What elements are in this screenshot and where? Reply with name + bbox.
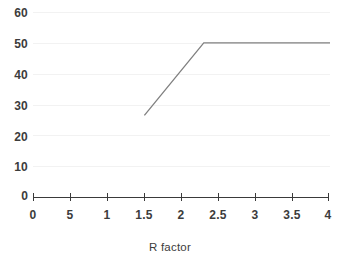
y-tick-label: 0 xyxy=(0,190,28,202)
x-tick xyxy=(144,193,145,201)
x-tick-label: 2 xyxy=(161,208,201,222)
y-tick-label: 60 xyxy=(0,7,28,19)
x-tick-label: 0 xyxy=(13,208,53,222)
x-tick-label: 1.5 xyxy=(124,208,164,222)
series-polyline xyxy=(144,43,330,115)
x-tick-label: 2.5 xyxy=(198,208,238,222)
x-tick xyxy=(33,193,34,201)
x-tick xyxy=(218,193,219,201)
series-line xyxy=(33,12,330,197)
x-tick-label: 4 xyxy=(308,208,340,222)
x-tick-label: 5 xyxy=(50,208,90,222)
x-axis-title: R factor xyxy=(0,241,340,253)
x-tick xyxy=(328,193,329,201)
x-tick xyxy=(181,193,182,201)
x-tick xyxy=(255,193,256,201)
x-tick-label: 3 xyxy=(235,208,275,222)
x-tick-label: 1 xyxy=(87,208,127,222)
y-tick-label: 30 xyxy=(0,100,28,112)
y-tick-label: 20 xyxy=(0,131,28,143)
x-axis: 0 5 1 1.5 2 2.5 3 3.5 4 xyxy=(0,208,340,226)
y-axis: 60 50 40 30 20 10 0 xyxy=(0,0,28,267)
x-tick xyxy=(292,193,293,201)
x-tick xyxy=(70,193,71,201)
y-tick-label: 10 xyxy=(0,161,28,173)
x-tick xyxy=(107,193,108,201)
y-tick-label: 50 xyxy=(0,38,28,50)
x-tick-label: 3.5 xyxy=(272,208,312,222)
plot-area xyxy=(33,12,330,197)
line-chart: 60 50 40 30 20 10 0 0 5 1 1.5 2 2.5 3 3.… xyxy=(0,0,340,267)
y-tick-label: 40 xyxy=(0,69,28,81)
